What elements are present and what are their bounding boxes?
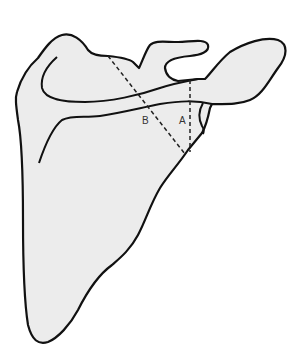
label-a: A [179, 115, 186, 126]
label-b: B [142, 115, 149, 126]
scapula-outline [16, 34, 286, 342]
scapula-diagram: A B [0, 0, 307, 348]
